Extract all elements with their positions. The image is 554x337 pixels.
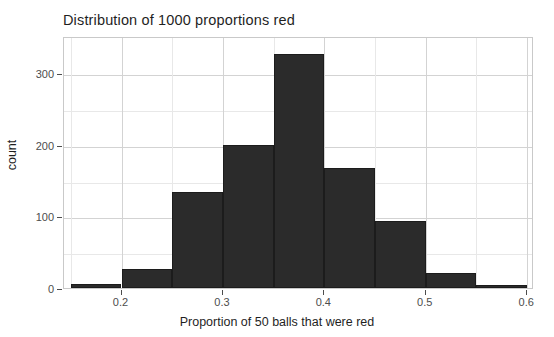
gridline-major-x bbox=[527, 38, 528, 288]
gridline-minor-x bbox=[71, 38, 72, 288]
x-axis-tick-mark bbox=[526, 290, 527, 295]
y-axis-title: count bbox=[5, 125, 19, 185]
x-axis-tick-labels: 0.20.30.40.50.6 bbox=[63, 296, 533, 312]
histogram-bar bbox=[375, 221, 426, 288]
histogram-bar bbox=[122, 269, 173, 288]
y-axis-tick-mark bbox=[57, 289, 62, 290]
y-axis-tick-label: 0 bbox=[48, 283, 54, 295]
y-axis-tick-label: 100 bbox=[36, 211, 54, 223]
x-axis-title: Proportion of 50 balls that were red bbox=[0, 315, 554, 329]
histogram-figure: Distribution of 1000 proportions red 010… bbox=[0, 0, 554, 337]
histogram-bar bbox=[476, 285, 527, 288]
y-axis-tick-label: 200 bbox=[36, 140, 54, 152]
x-axis-tick-label: 0.6 bbox=[519, 296, 534, 308]
histogram-bar bbox=[172, 192, 223, 288]
histogram-bar bbox=[274, 54, 325, 288]
x-axis-tick-mark bbox=[323, 290, 324, 295]
x-axis-tick-label: 0.4 bbox=[316, 296, 331, 308]
page-title: Distribution of 1000 proportions red bbox=[63, 12, 295, 28]
x-axis-tick-mark bbox=[222, 290, 223, 295]
gridline-major-x bbox=[122, 38, 123, 288]
x-axis-tick-label: 0.5 bbox=[417, 296, 432, 308]
y-axis-tick-mark bbox=[57, 146, 62, 147]
histogram-bar bbox=[223, 145, 274, 288]
histogram-bar bbox=[426, 273, 477, 288]
y-axis-tick-mark bbox=[57, 74, 62, 75]
gridline-minor-x bbox=[476, 38, 477, 288]
y-axis-tick-mark bbox=[57, 217, 62, 218]
y-axis-tick-label: 300 bbox=[36, 68, 54, 80]
x-axis-tick-mark bbox=[425, 290, 426, 295]
gridline-major-x bbox=[426, 38, 427, 288]
x-axis-tick-label: 0.3 bbox=[214, 296, 229, 308]
x-axis-tick-mark bbox=[121, 290, 122, 295]
histogram-bar bbox=[71, 284, 122, 288]
x-axis-tick-label: 0.2 bbox=[113, 296, 128, 308]
y-axis-tick-labels: 0100200300 bbox=[20, 37, 54, 289]
histogram-bar bbox=[324, 168, 375, 288]
plot-panel bbox=[63, 37, 533, 289]
